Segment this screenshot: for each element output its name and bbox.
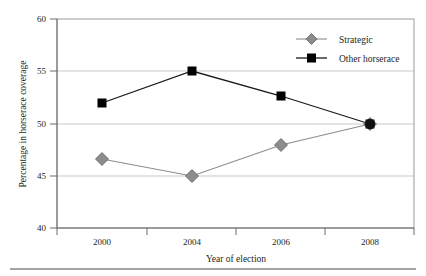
y-tick-label-45: 45 bbox=[37, 171, 47, 181]
legend-label-strategic: Strategic bbox=[339, 35, 373, 45]
x-tick-label-2000: 2000 bbox=[93, 237, 112, 247]
y-tick-label-50: 50 bbox=[37, 119, 47, 129]
y-tick-label-60: 60 bbox=[37, 14, 47, 24]
y-axis-ticks bbox=[50, 19, 57, 228]
data-point-other-2000 bbox=[98, 99, 107, 108]
x-tick-label-2004: 2004 bbox=[183, 237, 202, 247]
data-point-convergence-2008 bbox=[365, 119, 375, 129]
data-point-other-2004 bbox=[188, 67, 197, 76]
x-axis-ticks bbox=[57, 228, 414, 235]
line-chart: 60 55 50 45 40 Percentage in horserace c… bbox=[0, 0, 426, 276]
legend-item-other-horserace: Other horserace bbox=[296, 54, 399, 64]
y-axis-title: Percentage in horserace coverage bbox=[18, 61, 28, 188]
y-tick-label-40: 40 bbox=[37, 223, 47, 233]
x-tick-label-2008: 2008 bbox=[361, 237, 380, 247]
x-axis-title: Year of election bbox=[206, 254, 266, 264]
x-tick-label-2006: 2006 bbox=[272, 237, 291, 247]
legend-label-other-horserace: Other horserace bbox=[339, 54, 399, 64]
data-point-other-2006 bbox=[277, 92, 286, 101]
legend-marker-square-icon bbox=[307, 54, 316, 63]
y-tick-label-55: 55 bbox=[37, 66, 47, 76]
chart-figure: 60 55 50 45 40 Percentage in horserace c… bbox=[0, 0, 426, 276]
